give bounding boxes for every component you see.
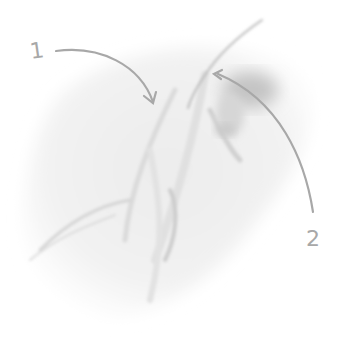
sketch-illustration (0, 0, 347, 359)
callout-label-1: 1 (29, 39, 46, 63)
callout-label-2: 2 (306, 228, 320, 250)
diagram-canvas: 1 2 (0, 0, 347, 359)
